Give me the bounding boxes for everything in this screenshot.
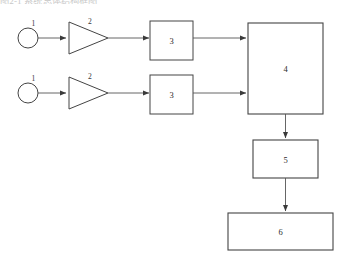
block-diagram-figure: 图2-1 系统总体结构框图 1 2 3: [0, 0, 350, 265]
amplifier-triangle-top-shape: [69, 22, 108, 54]
node-amplifier-2-bottom: 2: [69, 72, 108, 109]
node-amplifier-2-top: 2: [69, 17, 108, 54]
block-6-label: 6: [278, 227, 282, 237]
amplifier-triangle-bottom-shape: [69, 77, 108, 109]
node-block-3-top: 3: [150, 21, 193, 60]
node-block-5: 5: [253, 140, 318, 178]
source-circle-top-shape: [18, 28, 38, 48]
node-block-6: 6: [228, 213, 333, 250]
node-source-1-top: 1: [18, 19, 38, 49]
block-4-label: 4: [283, 64, 288, 74]
amplifier-triangle-top-label: 2: [88, 17, 92, 26]
source-circle-bottom-label: 1: [32, 74, 36, 83]
amplifier-triangle-bottom-label: 2: [88, 72, 92, 81]
block-3-bottom-label: 3: [169, 90, 173, 100]
source-circle-top-label: 1: [32, 19, 36, 28]
block-3-top-label: 3: [169, 36, 173, 46]
block-5-label: 5: [283, 155, 287, 165]
diagram-canvas: 1 2 3 1: [0, 0, 350, 265]
node-block-3-bottom: 3: [150, 75, 193, 114]
node-block-4: 4: [248, 23, 323, 114]
source-circle-bottom-shape: [18, 83, 38, 103]
node-source-1-bottom: 1: [18, 74, 38, 104]
